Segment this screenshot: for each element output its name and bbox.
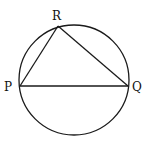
point-label-r: R [52,9,62,23]
circle-triangle-diagram: P Q R [0,0,147,143]
point-label-q: Q [132,80,142,94]
segment-pr [20,26,58,86]
point-label-p: P [4,80,12,94]
circle [19,25,129,135]
segment-rq [58,26,128,86]
